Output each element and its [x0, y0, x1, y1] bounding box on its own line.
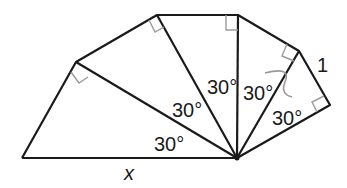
triangle-spiral-diagram: 30° 30° 30° 30° 30° 1 x [0, 0, 347, 188]
right-angle-mark-3 [226, 15, 238, 30]
right-angle-mark-1 [71, 72, 88, 83]
angle-label-4: 30° [243, 82, 273, 104]
spoke-4 [237, 51, 299, 158]
right-angle-marks [71, 15, 324, 112]
angle-label-1: 30° [154, 133, 184, 155]
center-vertex [235, 156, 240, 161]
angle-label-2: 30° [172, 99, 202, 121]
unknown-side-label-x: x [123, 162, 135, 184]
angle-label-5: 30° [272, 107, 302, 129]
angle-label-3: 30° [207, 76, 237, 98]
side-label-one: 1 [317, 54, 328, 76]
